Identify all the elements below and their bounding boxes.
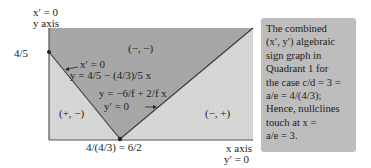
y-intercept-dot xyxy=(47,50,51,54)
caption-line: a/e = 3. xyxy=(266,129,352,142)
x-nullcline-equation: y = 4/5 − (4/3)/5 x xyxy=(70,69,152,82)
caption-line: the case c/d = 3 = xyxy=(266,76,352,89)
caption-line: touch at x = xyxy=(266,116,352,129)
region-right-label: (−, +) xyxy=(205,107,231,120)
caption-line: sign graph in xyxy=(266,49,352,62)
region-left-label: (+, −) xyxy=(59,107,85,120)
region-top-label: (−, −) xyxy=(128,42,154,55)
y-intercept-label: 4/5 xyxy=(14,47,29,59)
x-axis-bottom-label: y′ = 0 xyxy=(224,153,250,165)
x-intercept-label: 4/(4/3) = 6/2 xyxy=(86,141,142,154)
caption-line: Hence, nullclines xyxy=(266,102,352,115)
y-nullcline-label: y′ = 0 xyxy=(104,100,130,112)
caption-box: The combined (x′, y′) algebraic sign gra… xyxy=(261,18,356,152)
caption-line: a/e = 4/(4/3); xyxy=(266,89,352,102)
caption-line: Quadrant 1 for xyxy=(266,62,352,75)
caption-line: The combined xyxy=(266,22,352,35)
y-nullcline-equation: y = −6/f + 2/f x xyxy=(99,87,167,99)
y-axis-name: y axis xyxy=(33,17,59,29)
caption-line: (x′, y′) algebraic xyxy=(266,35,352,48)
